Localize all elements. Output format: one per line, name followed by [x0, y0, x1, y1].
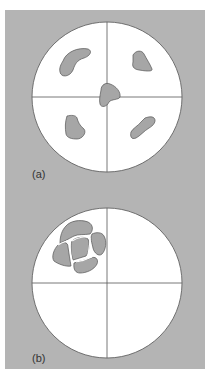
diagram-canvas — [0, 0, 207, 369]
panel-a-diagram — [32, 22, 182, 172]
panel-b-diagram — [32, 208, 182, 358]
panel-b-label: (b) — [32, 352, 45, 364]
panel-a-label: (a) — [32, 168, 45, 180]
